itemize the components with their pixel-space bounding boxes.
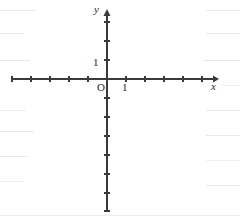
axes-svg	[0, 0, 240, 222]
x-axis-label: x	[211, 81, 216, 92]
x-axis-unit-label: 1	[122, 82, 128, 93]
y-axis-label: y	[94, 4, 99, 15]
y-axis-arrowhead	[104, 9, 111, 16]
origin-label: O	[97, 82, 105, 93]
coordinate-axes-figure: y x O 1 1	[0, 0, 240, 222]
y-axis-unit-label: 1	[93, 57, 99, 68]
